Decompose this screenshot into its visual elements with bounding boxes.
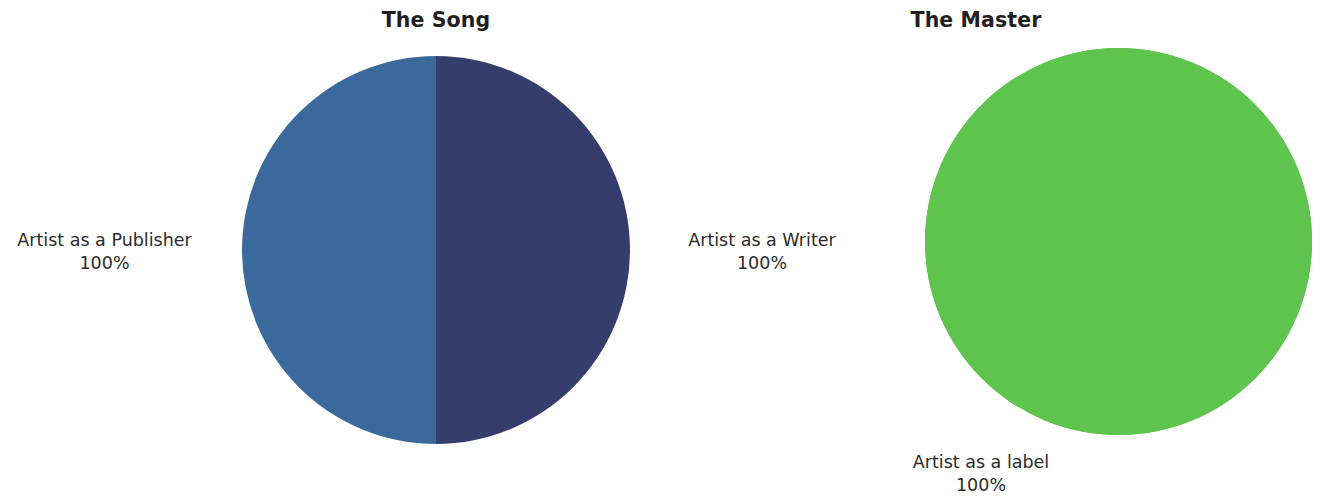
pie-label-artist-as-a-writer: Artist as a Writer 100% (672, 229, 852, 275)
chart-panel-the-song: The Song Artist as a Publisher 100% Arti… (0, 0, 880, 500)
chart-title-the-master: The Master (755, 10, 1197, 31)
pie-slice-artist-as-a-writer (436, 56, 630, 444)
pie-label-master-name: Artist as a label (913, 452, 1049, 472)
pie-label-writer-percent: 100% (672, 252, 852, 275)
pie-slice-artist-as-a-publisher (242, 56, 436, 444)
chart-panel-the-master: The Master Artist as a label 100% (880, 0, 1322, 500)
chart-canvas: The Song Artist as a Publisher 100% Arti… (0, 0, 1322, 500)
pie-chart-the-master (925, 48, 1312, 435)
pie-slice-artist-as-a-label-right (1119, 48, 1313, 435)
pie-label-master-percent: 100% (760, 474, 1202, 497)
pie-label-artist-as-a-label: Artist as a label 100% (760, 451, 1202, 497)
pie-label-publisher-name: Artist as a Publisher (17, 230, 191, 250)
pie-label-publisher-percent: 100% (0, 252, 209, 275)
chart-title-the-song: The Song (0, 10, 876, 31)
pie-chart-the-song (242, 56, 630, 444)
pie-slice-artist-as-a-label-left (925, 48, 1119, 435)
pie-label-writer-name: Artist as a Writer (688, 230, 836, 250)
pie-label-artist-as-a-publisher: Artist as a Publisher 100% (0, 229, 209, 275)
